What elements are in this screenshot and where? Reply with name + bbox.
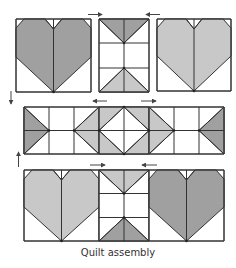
heart-block-dark xyxy=(149,170,224,241)
heart-block-dark xyxy=(16,19,91,92)
flying-geese-strip xyxy=(24,107,224,154)
hourglass-sashing-block xyxy=(99,19,149,92)
heart-block-light xyxy=(24,170,99,241)
heart-block-light xyxy=(157,19,231,91)
figure-caption: Quilt assembly xyxy=(0,247,236,258)
quilt-assembly-diagram xyxy=(0,0,236,268)
hourglass-sashing-block xyxy=(99,170,149,241)
